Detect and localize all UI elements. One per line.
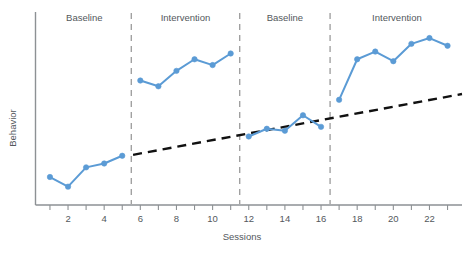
- data-point: [120, 153, 125, 158]
- data-point: [445, 43, 450, 48]
- x-axis-title: Sessions: [223, 231, 262, 242]
- data-point: [354, 57, 359, 62]
- x-tick-label: 8: [174, 213, 179, 224]
- phase-label: Baseline: [66, 12, 102, 23]
- x-tick-label: 22: [424, 213, 435, 224]
- data-point: [174, 68, 179, 73]
- data-point: [138, 78, 143, 83]
- data-point: [373, 49, 378, 54]
- phase-label: Intervention: [161, 12, 211, 23]
- chart-svg: Sessions Behavior 246810121416182022 Bas…: [0, 0, 474, 253]
- data-point: [282, 128, 287, 133]
- phase-label: Baseline: [267, 12, 303, 23]
- x-tick-label: 6: [138, 213, 143, 224]
- x-tick-label: 4: [102, 213, 107, 224]
- x-tick-label: 20: [388, 213, 399, 224]
- data-point: [318, 124, 323, 129]
- y-axis-title: Behavior: [7, 109, 18, 147]
- data-point: [228, 51, 233, 56]
- x-tick-label: 18: [352, 213, 363, 224]
- data-point: [47, 174, 52, 179]
- phase-label: Intervention: [372, 12, 422, 23]
- x-tick-label: 16: [316, 213, 327, 224]
- data-point: [156, 84, 161, 89]
- data-point: [65, 184, 70, 189]
- behavior-sessions-chart: Sessions Behavior 246810121416182022 Bas…: [0, 0, 474, 253]
- chart-background: [0, 0, 474, 253]
- data-point: [336, 97, 341, 102]
- x-tick-label: 12: [243, 213, 254, 224]
- data-point: [300, 113, 305, 118]
- x-tick-label: 10: [207, 213, 218, 224]
- data-point: [246, 134, 251, 139]
- data-point: [192, 57, 197, 62]
- data-point: [101, 161, 106, 166]
- x-tick-label: 2: [65, 213, 70, 224]
- data-point: [210, 62, 215, 67]
- data-point: [264, 126, 269, 131]
- data-point: [409, 41, 414, 46]
- data-point: [427, 35, 432, 40]
- data-point: [391, 59, 396, 64]
- data-point: [83, 165, 88, 170]
- x-tick-label: 14: [280, 213, 291, 224]
